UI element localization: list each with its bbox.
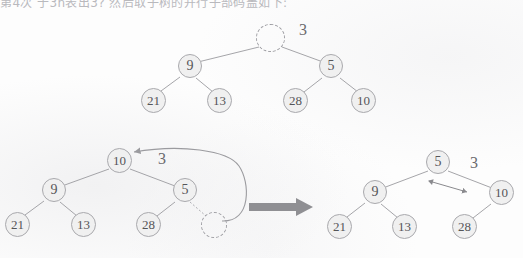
- label-t3-value: 3: [470, 155, 478, 170]
- node-t2-10[interactable]: 10: [107, 148, 132, 173]
- node-t1-13[interactable]: 13: [207, 88, 232, 113]
- edge-t2-9-21: [25, 201, 44, 215]
- node-t2-9[interactable]: 9: [42, 178, 66, 202]
- node-t2-5[interactable]: 5: [173, 178, 197, 202]
- edge-t1-root-5: [282, 47, 323, 62]
- node-t1-10[interactable]: 10: [351, 88, 376, 113]
- node-t3-21[interactable]: 21: [327, 214, 352, 239]
- node-t1-28[interactable]: 28: [283, 88, 308, 113]
- edge-t1-9-21: [161, 77, 180, 91]
- node-t2-21[interactable]: 21: [5, 212, 30, 237]
- node-t3-28[interactable]: 28: [452, 214, 477, 239]
- swap-indicator-arrow: [429, 181, 467, 192]
- edge-t1-5-28: [304, 78, 322, 92]
- node-t3-9[interactable]: 9: [363, 180, 387, 204]
- node-t3-10[interactable]: 10: [489, 180, 514, 205]
- node-t2-13[interactable]: 13: [71, 212, 96, 237]
- edge-t1-root-9: [198, 47, 259, 62]
- label-t1-value: 3: [299, 22, 307, 37]
- edge-t2-5-28: [157, 202, 175, 216]
- transformation-arrow: [249, 198, 313, 216]
- node-t1-21[interactable]: 21: [141, 88, 166, 113]
- node-t2-hole-empty[interactable]: [201, 212, 227, 238]
- edge-t3-9-21: [347, 203, 365, 217]
- edge-t3-root-9: [383, 171, 428, 188]
- edge-t2-9-13: [60, 202, 77, 216]
- node-t3-5[interactable]: 5: [426, 150, 450, 174]
- node-t1-9[interactable]: 9: [178, 54, 202, 78]
- node-t1-5[interactable]: 5: [319, 54, 343, 78]
- edge-t1-9-13: [196, 78, 213, 92]
- label-t2-value: 3: [158, 151, 166, 166]
- diagram-page: 第4次 于3n表出3? 然后取子树的并行子部码盖如下:: [0, 0, 523, 258]
- node-t3-13[interactable]: 13: [392, 214, 417, 239]
- edge-t2-5-hole: [190, 202, 206, 216]
- node-t1-root-empty[interactable]: [256, 24, 285, 52]
- edge-t2-root-5: [130, 169, 175, 186]
- edge-t3-10-28: [473, 204, 491, 218]
- edge-t3-root-10: [448, 171, 492, 188]
- edge-t2-root-9: [62, 169, 109, 186]
- edge-t3-9-13: [381, 204, 398, 218]
- node-t2-28[interactable]: 28: [136, 212, 161, 237]
